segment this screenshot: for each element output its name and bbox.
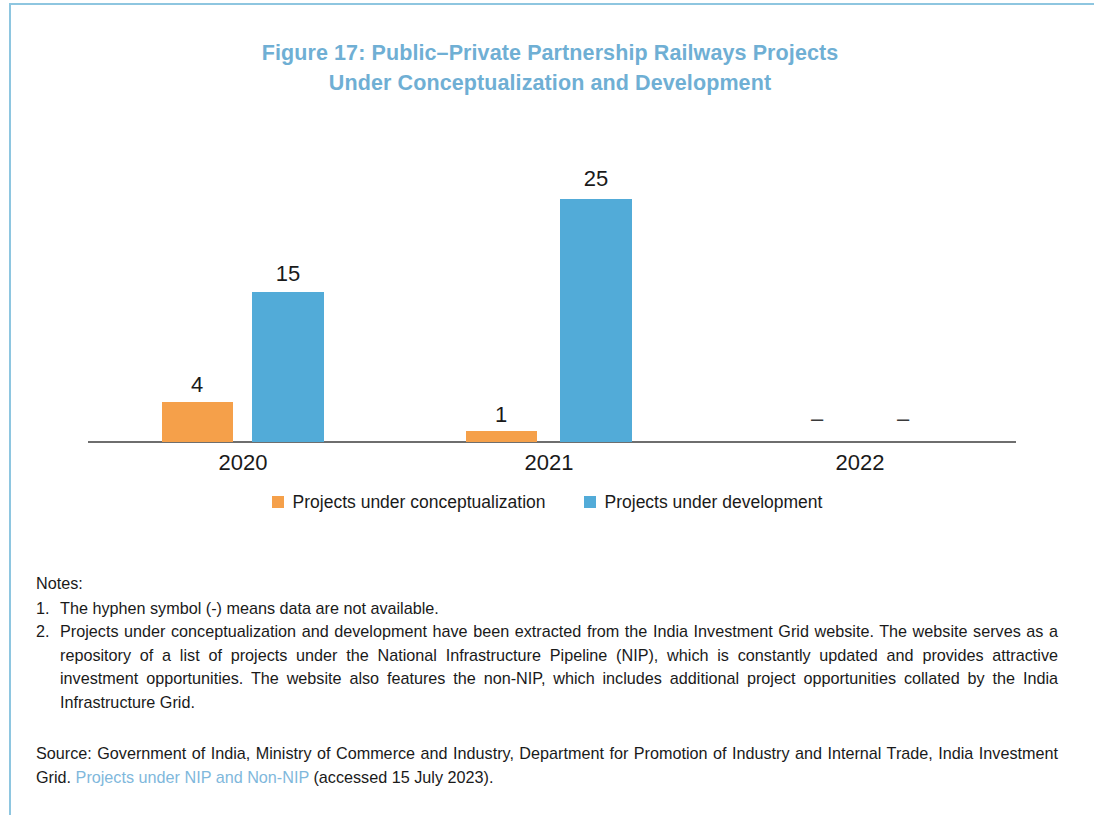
bar-2020-development[interactable] [252, 292, 324, 442]
x-axis-label-2021: 2021 [499, 450, 599, 476]
source-link[interactable]: Projects under NIP and Non-NIP [76, 768, 309, 786]
bar-chart: 4 15 1 25 – – 2020 2021 2022 Projects un… [0, 0, 1094, 530]
legend-label-development: Projects under development [605, 492, 823, 512]
legend-swatch-icon-conceptualization [272, 496, 284, 508]
note-number-2: 2. [36, 620, 60, 644]
x-axis-label-2022: 2022 [810, 450, 910, 476]
legend-item-development[interactable]: Projects under development [584, 492, 823, 512]
value-label-2022-development: – [853, 408, 953, 430]
legend-label-conceptualization: Projects under conceptualization [293, 492, 546, 512]
notes-heading: Notes: [36, 572, 1058, 596]
note-number-1: 1. [36, 597, 60, 621]
notes-block: Notes: 1. The hyphen symbol (-) means da… [36, 572, 1058, 714]
note-item-1: 1. The hyphen symbol (-) means data are … [36, 597, 1058, 621]
value-label-2020-development: 15 [238, 263, 338, 285]
value-label-2020-conceptualization: 4 [147, 374, 247, 396]
x-axis-label-2020: 2020 [193, 450, 293, 476]
value-label-2021-development: 25 [546, 168, 646, 190]
value-label-2022-conceptualization: – [767, 408, 867, 430]
bar-2021-development[interactable] [560, 199, 632, 442]
bar-2020-conceptualization[interactable] [162, 402, 233, 442]
bar-2021-conceptualization[interactable] [466, 431, 537, 442]
source-suffix-text: (accessed 15 July 2023). [309, 768, 493, 786]
figure-page: Figure 17: Public–Private Partnership Ra… [0, 0, 1094, 815]
legend-item-conceptualization[interactable]: Projects under conceptualization [272, 492, 546, 512]
value-label-2021-conceptualization: 1 [451, 404, 551, 426]
source-block: Source: Government of India, Ministry of… [36, 742, 1058, 789]
legend-swatch-icon-development [584, 496, 596, 508]
note-text-2: Projects under conceptualization and dev… [60, 620, 1058, 714]
note-item-2: 2. Projects under conceptualization and … [36, 620, 1058, 714]
chart-legend: Projects under conceptualization Project… [0, 492, 1094, 512]
note-text-1: The hyphen symbol (-) means data are not… [60, 597, 1058, 621]
